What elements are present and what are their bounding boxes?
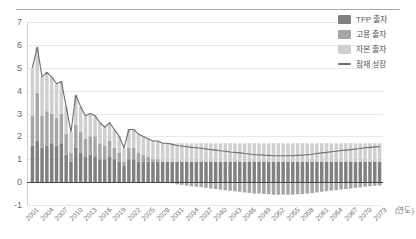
bar-segment [224,143,227,161]
plot-area [27,22,383,205]
bar-segment [344,143,347,161]
bar-segment [257,182,260,193]
bar-segment [252,143,255,161]
bar-segment [306,182,309,193]
bar-segment [64,155,67,182]
bar-segment [228,182,231,191]
bar-segment [93,136,96,157]
bar-segment [286,162,289,183]
bar-segment [272,182,275,195]
bar-segment [180,162,183,183]
bar-segment [243,162,246,183]
y-axis-tick-label: 0 [17,177,22,187]
bar-segment [330,162,333,183]
bar-segment [45,111,48,145]
x-axis-tick-label: 2037 [198,206,214,222]
y-axis-tick-label: 5 [17,63,22,73]
bar-segment [306,143,309,161]
bar-segment [315,182,318,192]
chart-legend: TFP 출자고용 출자자본 출자잠재 성장 [338,13,387,70]
x-axis-tick-label: 2019 [111,206,127,222]
bar-segment [248,143,251,161]
bar-segment [209,162,212,183]
x-axis-tick-label: 2022 [126,206,142,222]
bar-segment [272,162,275,183]
y-axis-tick-label: -1 [14,200,22,210]
bar-segment [199,162,202,183]
bar-segment [132,159,135,182]
x-axis-tick-label: 2028 [155,206,171,222]
y-axis-tick-label: 1 [17,154,22,164]
bar-segment [238,162,241,183]
bar-segment [214,143,217,161]
bar-segment [69,152,72,161]
bar-segment [89,114,92,137]
x-axis-tick-label: 2010 [68,206,84,222]
bar-segment [330,182,333,190]
bar-segment [161,143,164,161]
bar-segment [286,143,289,161]
y-axis-tick-label: 3 [17,109,22,119]
bar-segment [69,162,72,183]
bar-segment [378,143,381,161]
bar-segment [113,159,116,182]
bar-segment [373,143,376,161]
bar-segment [277,143,280,161]
bar-segment [233,182,236,191]
bar-segment [55,84,58,118]
legend-item-label: 잠재 성장 [356,60,386,69]
bar-segment [368,162,371,183]
bar-segment [79,107,82,132]
top-divider [16,9,400,10]
bar-segment [248,182,251,193]
bar-segment [40,116,43,148]
bar-segment [60,143,63,182]
x-axis-tick-label: 2013 [82,206,98,222]
bar-segment [132,130,135,148]
bar-segment [93,116,96,137]
bar-segment [45,72,48,111]
x-axis-tick-label: 2046 [241,206,257,222]
bar-segment [171,162,174,183]
bar-segment [344,162,347,183]
bar-segment [195,143,198,161]
x-axis-tick-label: 2034 [184,206,200,222]
bar-segment [137,134,140,152]
bar-segment [325,162,328,183]
bar-segment [281,182,284,195]
bar-segment [291,182,294,195]
bar-segment [306,162,309,183]
x-axis-tick-label: 2058 [299,206,315,222]
bar-segment [79,152,82,182]
bar-segment [291,162,294,183]
bar-segment [262,182,265,194]
bar-segment [238,182,241,192]
bar-segment [243,143,246,161]
bar-segment [267,143,270,161]
bar-segment [257,143,260,161]
bar-segment [248,162,251,183]
bar-segment [214,182,217,189]
bar-segment [122,148,125,162]
bar-segment [127,159,130,182]
x-axis-tick-label: 2007 [53,206,69,222]
bar-segment [117,152,120,161]
bar-segment [354,143,357,161]
bar-segment [156,159,159,161]
chart-plot-svg [27,22,383,205]
bar-segment [378,162,381,183]
bar-segment [190,162,193,183]
bar-segment [36,141,39,182]
x-axis-tick-label: 2043 [227,206,243,222]
x-axis-tick-label: 2040 [212,206,228,222]
bar-segment [301,182,304,194]
bar-segment [64,134,67,155]
legend-color-swatch-icon [338,45,351,54]
bar-segment [175,162,178,183]
bar-segment [50,143,53,182]
y-axis-tick-label: 4 [17,86,22,96]
bar-segment [142,162,145,183]
bar-segment [98,159,101,182]
bar-segment [84,116,87,139]
bar-segment [108,141,111,157]
